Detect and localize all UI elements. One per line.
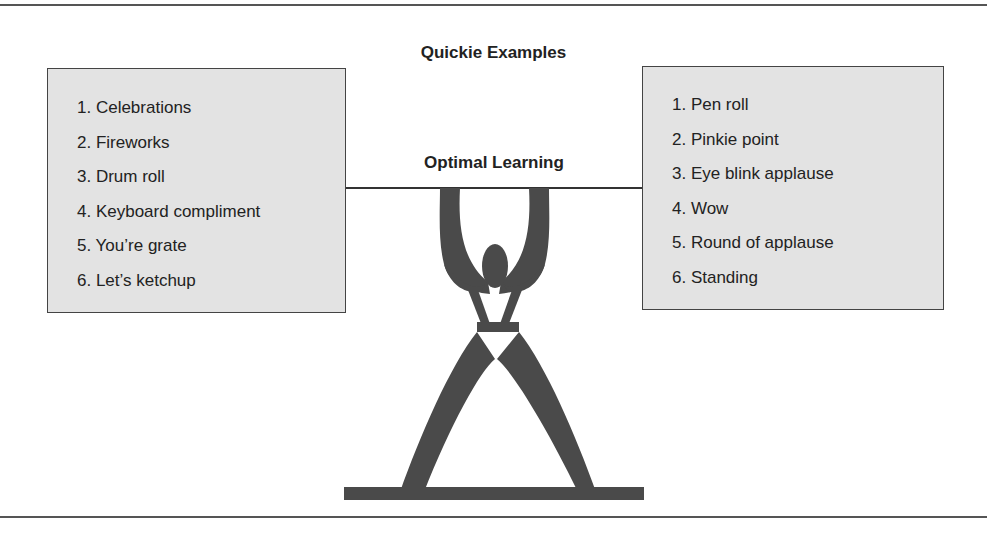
list-item: 3. Eye blink applause	[672, 157, 834, 192]
left-examples-list: 1. Celebrations 2. Fireworks 3. Drum rol…	[77, 91, 260, 298]
list-item: 5. Round of applause	[672, 226, 834, 261]
weightlifter-figure	[340, 186, 650, 506]
list-item: 2. Fireworks	[77, 126, 260, 161]
list-item: 4. Keyboard compliment	[77, 195, 260, 230]
bar-label: Optimal Learning	[346, 153, 642, 173]
list-item: 4. Wow	[672, 192, 834, 227]
right-examples-box: 1. Pen roll 2. Pinkie point 3. Eye blink…	[642, 66, 944, 310]
list-item: 1. Pen roll	[672, 88, 834, 123]
diagram-title: Quickie Examples	[0, 43, 987, 63]
list-item: 5. You’re grate	[77, 229, 260, 264]
list-item: 3. Drum roll	[77, 160, 260, 195]
list-item: 1. Celebrations	[77, 91, 260, 126]
list-item: 6. Let’s ketchup	[77, 264, 260, 299]
list-item: 2. Pinkie point	[672, 123, 834, 158]
left-examples-box: 1. Celebrations 2. Fireworks 3. Drum rol…	[47, 68, 346, 313]
bottom-rule	[0, 516, 987, 518]
weightlifter-icon	[340, 186, 650, 506]
top-rule	[0, 4, 987, 6]
list-item: 6. Standing	[672, 261, 834, 296]
right-examples-list: 1. Pen roll 2. Pinkie point 3. Eye blink…	[672, 88, 834, 295]
